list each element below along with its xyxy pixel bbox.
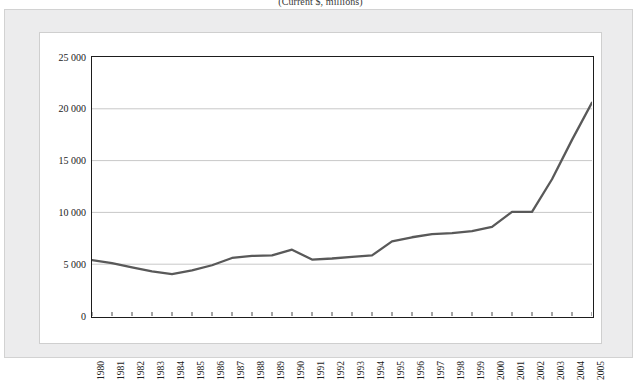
x-tick-label: 2003	[557, 361, 567, 380]
x-tick-label: 2004	[577, 361, 587, 380]
plot-area	[91, 56, 594, 318]
y-tick-label: 20 000	[59, 104, 87, 114]
x-tick-label: 1994	[377, 361, 387, 380]
x-tick-label: 2001	[517, 361, 527, 380]
y-tick-label: 10 000	[59, 208, 87, 218]
gridlines	[92, 109, 592, 264]
x-tick-label: 2000	[497, 361, 507, 380]
x-tick-label: 1995	[397, 361, 407, 380]
chart-panel: 05 00010 00015 00020 00025 000 198019811…	[39, 32, 602, 344]
x-tick-label: 1987	[237, 361, 247, 380]
x-tick-label: 1982	[137, 361, 147, 380]
x-tick-label: 1988	[257, 361, 267, 380]
figure-outer-frame: 05 00010 00015 00020 00025 000 198019811…	[4, 9, 633, 358]
x-tick-label: 1991	[317, 361, 327, 380]
x-tick-label: 1983	[157, 361, 167, 380]
x-tick-label: 1980	[97, 361, 107, 380]
x-tick-label: 1997	[437, 361, 447, 380]
x-tick-label: 1996	[417, 361, 427, 380]
y-axis: 05 00010 00015 00020 00025 000	[40, 56, 86, 318]
y-tick-label: 25 000	[59, 53, 87, 63]
line-chart-svg	[92, 57, 592, 316]
x-tick-label: 1999	[477, 361, 487, 380]
x-tick-label: 1989	[277, 361, 287, 380]
x-axis: 1980198119821983198419851986198719881989…	[91, 321, 594, 365]
x-tick-label: 1985	[197, 361, 207, 380]
x-tick-label: 2002	[537, 361, 547, 380]
x-tick-label: 2005	[597, 361, 607, 380]
y-tick-label: 15 000	[59, 156, 87, 166]
x-tick-label: 1998	[457, 361, 467, 380]
y-tick-label: 5 000	[64, 260, 87, 270]
x-tick-label: 1993	[357, 361, 367, 380]
figure-subtitle: (Current $, millions)	[0, 0, 641, 7]
x-axis-tick-marks	[92, 312, 592, 316]
x-tick-label: 1986	[217, 361, 227, 380]
x-tick-label: 1990	[297, 361, 307, 380]
x-tick-label: 1992	[337, 361, 347, 380]
data-series-line	[92, 103, 592, 274]
y-tick-label: 0	[81, 312, 86, 322]
x-tick-label: 1984	[177, 361, 187, 380]
x-tick-label: 1981	[117, 361, 127, 380]
